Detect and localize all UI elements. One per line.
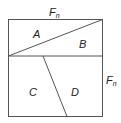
fibonacci-square-diagram: Fn Fn A B C D <box>0 0 121 123</box>
diagonal-top <box>9 20 103 57</box>
slant-bottom <box>43 56 67 117</box>
top-side-label: Fn <box>49 6 60 19</box>
right-side-label: Fn <box>106 74 117 87</box>
region-d-label: D <box>71 86 79 98</box>
region-b-label: B <box>79 38 86 50</box>
region-a-label: A <box>32 28 40 40</box>
region-c-label: C <box>29 86 37 98</box>
outer-square <box>9 20 103 117</box>
